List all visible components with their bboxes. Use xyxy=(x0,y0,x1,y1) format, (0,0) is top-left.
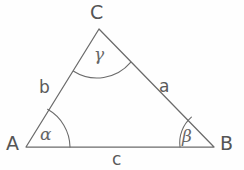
side-label-a: a xyxy=(159,78,169,95)
triangle-diagram-canvas: C A B b a c α β γ xyxy=(0,0,244,170)
angle-label-alpha: α xyxy=(40,126,51,143)
side-label-b: b xyxy=(39,79,50,96)
vertex-label-a: A xyxy=(6,134,19,153)
triangle-figure xyxy=(0,0,244,170)
vertex-label-c: C xyxy=(90,3,103,22)
side-label-c: c xyxy=(112,151,121,168)
angle-arc-gamma xyxy=(74,62,131,78)
angle-label-gamma: γ xyxy=(94,46,104,63)
vertex-label-b: B xyxy=(220,134,233,153)
angle-label-beta: β xyxy=(182,128,192,145)
